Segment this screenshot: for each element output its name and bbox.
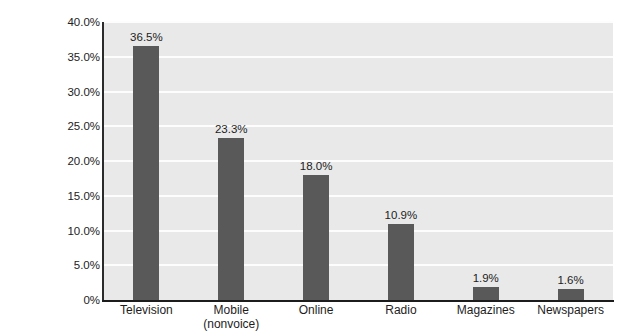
x-axis-category-label-line: Television xyxy=(104,303,189,317)
bar[interactable] xyxy=(218,138,244,300)
y-axis-line xyxy=(102,22,104,301)
bar[interactable] xyxy=(303,175,329,300)
bar-value-label: 18.0% xyxy=(300,160,333,172)
x-axis-line xyxy=(102,300,614,302)
y-axis-tick-label: 30.0% xyxy=(4,86,100,98)
bar-slot: 10.9% xyxy=(359,22,444,300)
x-axis-category-label-line: Radio xyxy=(359,303,444,317)
bar-value-label: 10.9% xyxy=(385,209,418,221)
bar-value-label: 1.9% xyxy=(473,272,499,284)
y-axis-tick-label: 15.0% xyxy=(4,190,100,202)
bar-slot: 23.3% xyxy=(189,22,274,300)
x-axis-category-label: Newspapers xyxy=(528,303,613,317)
x-axis-category-label-line: Magazines xyxy=(443,303,528,317)
y-axis-tick-label: 35.0% xyxy=(4,51,100,63)
bar-value-label: 1.6% xyxy=(557,274,583,286)
y-axis-tick-label: 20.0% xyxy=(4,155,100,167)
x-axis-category-label-line: Newspapers xyxy=(528,303,613,317)
x-axis-category-label-line: (nonvoice) xyxy=(189,317,274,331)
chart-figure: 36.5%23.3%18.0%10.9%1.9%1.6% 40.0%35.0%3… xyxy=(0,0,634,336)
y-axis-tick-labels: 40.0%35.0%30.0%25.0%20.0%15.0%10.0%5.0%0… xyxy=(0,0,100,336)
x-axis-category-label: Television xyxy=(104,303,189,317)
bar[interactable] xyxy=(133,46,159,300)
x-axis-category-label: Magazines xyxy=(443,303,528,317)
bar-slot: 1.9% xyxy=(443,22,528,300)
x-axis-category-label-line: Online xyxy=(274,303,359,317)
bar-slot: 36.5% xyxy=(104,22,189,300)
bar[interactable] xyxy=(473,287,499,300)
x-axis-category-label-line: Mobile xyxy=(189,303,274,317)
bar-value-label: 23.3% xyxy=(215,123,248,135)
y-axis-tick-label: 0% xyxy=(4,294,100,306)
bar-value-label: 36.5% xyxy=(130,31,163,43)
bar[interactable] xyxy=(558,289,584,300)
bar-slot: 18.0% xyxy=(274,22,359,300)
y-axis-tick-label: 40.0% xyxy=(4,16,100,28)
y-axis-tick-label: 10.0% xyxy=(4,225,100,237)
bar-slot: 1.6% xyxy=(528,22,613,300)
plot-area: 36.5%23.3%18.0%10.9%1.9%1.6% xyxy=(104,22,613,300)
x-axis-category-label: Radio xyxy=(359,303,444,317)
x-axis-category-label: Online xyxy=(274,303,359,317)
y-axis-tick-label: 25.0% xyxy=(4,120,100,132)
x-axis-category-label: Mobile(nonvoice) xyxy=(189,303,274,331)
bar[interactable] xyxy=(388,224,414,300)
y-axis-tick-label: 5.0% xyxy=(4,259,100,271)
